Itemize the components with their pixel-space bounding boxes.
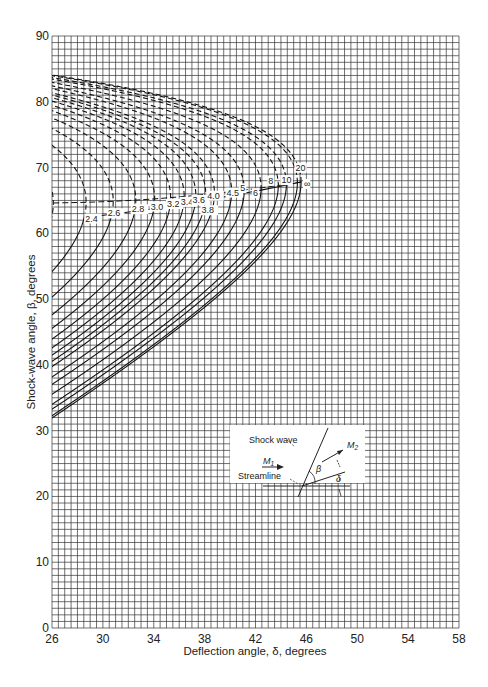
y-tick-label: 50 (36, 292, 50, 306)
y-axis-ticks: 0102030405060708090 (36, 29, 50, 635)
x-tick-label: 46 (300, 632, 314, 646)
y-tick-label: 70 (36, 161, 50, 175)
y-tick-label: 90 (36, 29, 50, 43)
y-tick-label: 20 (36, 489, 50, 503)
mach-curve-strong (27, 78, 261, 190)
x-tick-label: 30 (96, 632, 110, 646)
mach-curve-strong (27, 87, 215, 199)
mach-label: 6 (253, 188, 258, 198)
y-tick-label: 0 (42, 621, 49, 635)
mach-label: 10 (281, 175, 291, 185)
mach-label: ∞ (304, 179, 310, 189)
mach-label: 3.0 (151, 202, 164, 212)
mach-label: 5 (240, 183, 245, 193)
y-tick-label: 30 (36, 424, 50, 438)
mach-label: 3.2 (167, 199, 180, 209)
x-tick-label: 50 (351, 632, 365, 646)
mach-curve-weak (27, 199, 214, 383)
y-tick-label: 10 (36, 555, 50, 569)
streamline-label: Streamline (238, 471, 281, 481)
x-tick-label: 38 (198, 632, 212, 646)
mach-label: 2.6 (108, 208, 121, 218)
mach-curve-strong (27, 98, 171, 207)
mach-label: 3.6 (192, 195, 205, 205)
mach-label: 2.4 (85, 214, 98, 224)
x-axis-title: Deflection angle, δ, degrees (183, 645, 326, 657)
mach-label: 20 (295, 163, 305, 173)
shock-wave-label: Shock wave (249, 435, 298, 445)
mach-curve-strong (27, 74, 287, 186)
x-axis-ticks: 263034384246505458 (45, 632, 466, 646)
mach-label: 4.5 (227, 188, 240, 198)
theta-beta-mach-chart: 2.42.62.83.03.23.43.63.84.04.55681020∞ 2… (0, 0, 488, 687)
grid (52, 36, 459, 628)
oblique-shock-inset: Shock wave Streamline M1 M2 β δ (230, 425, 365, 497)
mach-curve-weak (27, 193, 244, 400)
x-tick-label: 42 (249, 632, 263, 646)
x-tick-label: 58 (452, 632, 466, 646)
mach-label: 3.8 (201, 205, 214, 215)
y-tick-label: 40 (36, 358, 50, 372)
mach-label: 4.0 (207, 191, 220, 201)
y-axis-title: Shock-wave angle, β, degrees (25, 254, 37, 409)
mach-curve-strong (29, 72, 301, 182)
mach-label: 3.4 (181, 197, 194, 207)
mach-label: 8 (268, 176, 273, 186)
mach-curve-strong (28, 81, 244, 193)
y-tick-label: 60 (36, 226, 50, 240)
beta-label: β (315, 464, 321, 474)
x-tick-label: 34 (147, 632, 161, 646)
y-tick-label: 80 (36, 95, 50, 109)
mach-labels: 2.42.62.83.03.23.43.63.84.04.55681020∞ (84, 163, 310, 224)
mach-label: 2.8 (132, 204, 145, 214)
x-tick-label: 54 (401, 632, 415, 646)
